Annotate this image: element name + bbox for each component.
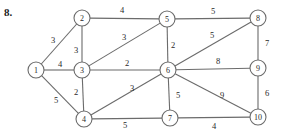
graph-edge (167, 27, 168, 62)
edge-weight-label: 4 (58, 59, 63, 69)
edge-weight-label: 9 (220, 90, 224, 100)
graph-edge (91, 74, 161, 115)
node-label: 3 (80, 66, 84, 75)
node-label: 9 (256, 64, 260, 73)
graph-node-1: 1 (28, 62, 44, 78)
graph-edge (168, 78, 169, 110)
graph-figure-page: 8. 3453423235255589476 12345678910 (0, 0, 284, 136)
node-label: 5 (165, 15, 169, 24)
node-label: 6 (166, 66, 170, 75)
node-label: 7 (168, 114, 172, 123)
graph-edge (175, 22, 251, 66)
edge-weight-label: 5 (54, 95, 58, 105)
edge-weight-label: 2 (74, 87, 78, 97)
edge-weight-label: 6 (265, 88, 269, 98)
edge-weight-label: 5 (176, 90, 180, 100)
edge-weight-label: 2 (125, 58, 129, 68)
graph-edge (92, 118, 162, 119)
edge-weight-label: 5 (123, 120, 127, 130)
node-label: 2 (80, 14, 84, 23)
graph-edge (175, 74, 251, 114)
weighted-graph-diagram: 3453423235255589476 12345678910 (0, 0, 284, 136)
graph-edge (82, 78, 83, 111)
edge-weight-label: 3 (51, 35, 55, 45)
edge-weight-label: 3 (74, 45, 78, 55)
graph-node-7: 7 (162, 110, 178, 126)
graph-edge (175, 18, 250, 19)
edge-weight-label: 4 (120, 5, 125, 15)
edge-weight-label: 3 (130, 83, 134, 93)
edge-weight-label: 5 (210, 30, 214, 40)
graph-node-6: 6 (160, 62, 176, 78)
graph-node-5: 5 (159, 11, 175, 27)
edge-weight-label: 2 (171, 40, 175, 50)
graph-edge (90, 18, 159, 19)
graph-edge (42, 76, 79, 114)
edge-weight-label: 8 (216, 56, 220, 66)
graph-edge (178, 117, 250, 118)
graph-node-3: 3 (74, 62, 90, 78)
graph-node-10: 10 (250, 109, 266, 125)
node-label: 10 (254, 113, 262, 122)
graph-edge (176, 68, 250, 70)
graph-edge (41, 24, 76, 64)
edge-weight-label: 7 (265, 38, 269, 48)
node-label: 4 (82, 115, 86, 124)
edge-weight-label: 4 (212, 121, 217, 131)
graph-node-4: 4 (76, 111, 92, 127)
node-label: 8 (256, 14, 260, 23)
graph-node-8: 8 (250, 10, 266, 26)
edge-weight-label: 5 (211, 6, 215, 16)
node-label: 1 (34, 66, 38, 75)
graph-node-9: 9 (250, 60, 266, 76)
graph-node-2: 2 (74, 10, 90, 26)
edge-weight-label: 3 (122, 32, 126, 42)
